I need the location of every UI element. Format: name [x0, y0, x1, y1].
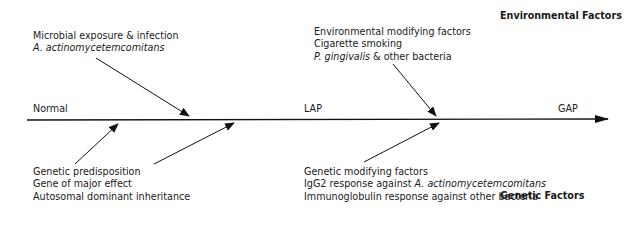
immunoglobulin-response: Immunoglobulin response against other ba…: [304, 191, 546, 203]
gene-major-effect: Gene of major effect: [33, 178, 190, 190]
genetic-predisposition-title: Genetic predisposition: [33, 166, 190, 178]
axis-label-lap: LAP: [304, 103, 322, 115]
env-modifying-label: Environmental modifying factors Cigarett…: [314, 26, 471, 63]
bacteria-species: P. gingivalis: [314, 51, 370, 62]
disease-progression-axis: [27, 119, 608, 120]
env-modifying-bacteria: P. gingivalis & other bacteria: [314, 51, 471, 63]
igg2-species: A. actinomycetemcomitans: [415, 178, 546, 189]
heading-environmental-factors: Environmental Factors: [500, 10, 622, 22]
igg2-prefix: IgG2 response against: [304, 178, 415, 189]
axis-label-gap: GAP: [558, 103, 578, 115]
env-modifying-title: Environmental modifying factors: [314, 26, 471, 38]
microbial-exposure-label: Microbial exposure & infection A. actino…: [33, 30, 179, 55]
arrow-env-modifying: [393, 64, 436, 116]
microbial-species: A. actinomycetemcomitans: [33, 42, 179, 54]
arrow-genetic-predisposition-2: [154, 123, 234, 164]
arrow-genetic-predisposition-1: [75, 124, 118, 164]
arrow-microbial-exposure: [96, 58, 189, 116]
genetic-modifying-label: Genetic modifying factors IgG2 response …: [304, 166, 546, 203]
genetic-modifying-title: Genetic modifying factors: [304, 166, 546, 178]
genetic-predisposition-label: Genetic predisposition Gene of major eff…: [33, 166, 190, 203]
arrow-genetic-modifying: [364, 123, 439, 162]
autosomal-dominant: Autosomal dominant inheritance: [33, 191, 190, 203]
bacteria-rest: & other bacteria: [370, 51, 452, 62]
env-modifying-smoking: Cigarette smoking: [314, 38, 471, 50]
microbial-exposure-title: Microbial exposure & infection: [33, 30, 179, 42]
igg2-response: IgG2 response against A. actinomycetemco…: [304, 178, 546, 190]
axis-label-normal: Normal: [33, 103, 68, 115]
